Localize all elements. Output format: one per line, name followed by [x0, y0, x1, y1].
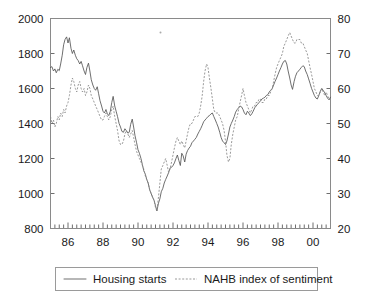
right-tick-label-70: 70 — [338, 48, 351, 60]
x-tick-label-94: 94 — [202, 236, 215, 248]
chart-legend: Housing starts NAHB index of sentiment — [56, 268, 334, 291]
right-tick-label-40: 40 — [338, 153, 351, 165]
chart-background — [0, 0, 371, 298]
right-tick-label-50: 50 — [338, 118, 351, 130]
x-tick-label-96: 96 — [237, 236, 250, 248]
legend-label-housing-starts: Housing starts — [93, 273, 167, 285]
right-tick-label-20: 20 — [338, 223, 351, 235]
x-tick-label-98: 98 — [272, 236, 285, 248]
x-tick-label-90: 90 — [132, 236, 145, 248]
right-tick-label-80: 80 — [338, 13, 351, 25]
chart-figure: 800100012001400160018002000 203040506070… — [0, 0, 371, 298]
left-tick-label-1200: 1200 — [18, 153, 44, 165]
right-tick-label-30: 30 — [338, 188, 351, 200]
left-tick-label-1000: 1000 — [18, 188, 44, 200]
left-tick-label-2000: 2000 — [18, 13, 44, 25]
right-tick-label-60: 60 — [338, 83, 351, 95]
x-tick-label-86: 86 — [62, 236, 75, 248]
stray-speck — [160, 32, 162, 34]
left-tick-label-1600: 1600 — [18, 83, 44, 95]
x-tick-label-00: 00 — [307, 236, 320, 248]
left-tick-label-1800: 1800 — [18, 48, 44, 60]
legend-label-nahb-index: NAHB index of sentiment — [204, 273, 333, 285]
left-tick-label-1400: 1400 — [18, 118, 44, 130]
dual-axis-line-chart: 800100012001400160018002000 203040506070… — [0, 0, 371, 298]
x-tick-label-88: 88 — [97, 236, 110, 248]
x-tick-label-92: 92 — [167, 236, 180, 248]
left-tick-label-800: 800 — [24, 223, 43, 235]
